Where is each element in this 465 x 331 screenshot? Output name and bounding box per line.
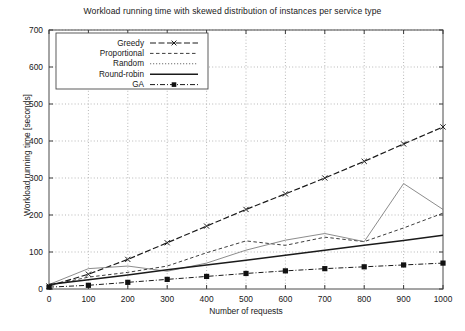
x-tick-label: 100: [81, 294, 95, 304]
data-point-ga-400: [204, 274, 209, 279]
data-point-ga-1000: [440, 261, 445, 266]
x-tick-label: 300: [160, 294, 174, 304]
x-tick-label: 500: [239, 294, 253, 304]
series-line-random: [49, 184, 443, 285]
legend-label-random: Random: [113, 59, 144, 68]
chart-legend: GreedyProportionalRandomRound-robinGA: [56, 33, 208, 89]
data-point-greedy-500: [243, 207, 248, 212]
x-tick-label: 200: [121, 294, 135, 304]
data-point-greedy-700: [322, 175, 327, 180]
x-tick-label: 900: [397, 294, 411, 304]
data-point-greedy-800: [362, 159, 367, 164]
data-point-ga-300: [165, 277, 170, 282]
data-point-ga-600: [283, 268, 288, 273]
data-point-ga-0: [46, 285, 51, 290]
chart-figure: Workload running time with skewed distri…: [0, 0, 465, 331]
x-tick-label: 700: [318, 294, 332, 304]
x-tick-label: 800: [357, 294, 371, 304]
x-tick-label: 1000: [434, 294, 453, 304]
data-point-ga-800: [362, 264, 367, 269]
legend-label-proportional: Proportional: [100, 49, 144, 58]
y-tick-label: 700: [29, 25, 43, 35]
x-tick-label: 400: [200, 294, 214, 304]
data-point-ga-900: [401, 262, 406, 267]
x-axis-label: Number of requests: [49, 306, 443, 316]
legend-label-round-robin: Round-robin: [99, 70, 145, 79]
y-axis-label: Workload running time [seconds]: [22, 40, 32, 270]
data-point-ga-100: [86, 283, 91, 288]
plot-area: 0100200300400500600700010020030040050060…: [0, 0, 465, 331]
x-tick-label: 600: [278, 294, 292, 304]
data-point-greedy-600: [283, 191, 288, 196]
data-point-ga-200: [125, 280, 130, 285]
data-point-ga-500: [243, 271, 248, 276]
legend-label-ga: GA: [132, 80, 144, 89]
data-point-greedy-400: [204, 224, 209, 229]
y-tick-label: 0: [38, 284, 43, 294]
data-point-ga-700: [322, 266, 327, 271]
legend-label-greedy: Greedy: [117, 39, 145, 48]
x-tick-label: 0: [47, 294, 52, 304]
